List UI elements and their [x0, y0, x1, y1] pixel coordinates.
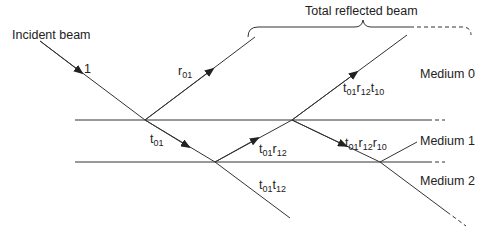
label-t01: t01: [150, 133, 164, 148]
total-reflected-brace: [248, 20, 410, 37]
medium-1-label: Medium 1: [420, 135, 475, 148]
label-t01r12r10: t01r12r10: [345, 137, 387, 152]
incident-beam-label: Incident beam: [12, 29, 91, 42]
label-t01r12t10: t01r12t10: [343, 82, 384, 97]
label-r01: r01: [178, 65, 192, 80]
brace-label: Total reflected beam: [305, 5, 418, 18]
medium-2-label: Medium 2: [420, 175, 475, 188]
label-t01t12: t01t12: [259, 179, 286, 194]
medium-0-label: Medium 0: [420, 68, 475, 81]
label-t01r12: t01r12: [259, 143, 287, 158]
incident-amplitude-label: 1: [84, 63, 91, 76]
